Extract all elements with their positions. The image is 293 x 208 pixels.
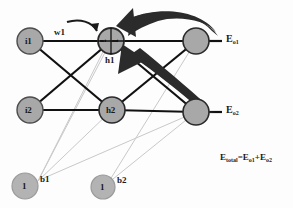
- node-h1-net-text: net: [100, 38, 106, 43]
- node-label-b1: b1: [40, 175, 50, 184]
- bias-edge-b2-o2: [108, 112, 196, 183]
- error-label-eo2: Eo2: [226, 105, 239, 115]
- node-label-h2: h2: [106, 106, 115, 115]
- node-o2[interactable]: [183, 99, 209, 125]
- error-label-eo1-base: E: [226, 33, 233, 44]
- node-inner-b2: 1: [100, 183, 104, 192]
- node-label-i2: i2: [25, 106, 32, 115]
- formula-t1-base: E: [243, 152, 249, 162]
- node-inner-b1: 1: [22, 182, 26, 191]
- bias-edge-b1-h1b: [38, 42, 108, 181]
- node-label-h1: h1: [105, 56, 115, 65]
- total-error-formula: Etotal=Eo1+Eo2: [220, 153, 272, 162]
- error-label-eo1: Eo1: [226, 34, 239, 44]
- bias-edge-b1-h2: [38, 110, 112, 181]
- error-label-eo1-sub: o1: [233, 39, 239, 45]
- weight-label-w1: w1: [54, 28, 65, 37]
- w1-pointer-arrow: [67, 20, 99, 31]
- node-h1-out-text: out: [112, 38, 118, 43]
- node-label-b2: b2: [117, 176, 127, 185]
- formula-t2-sub: o2: [266, 157, 272, 163]
- bias-edge-b1-o2: [44, 112, 196, 178]
- node-o1[interactable]: [183, 28, 209, 54]
- formula-lhs-sub: total: [226, 157, 238, 163]
- error-label-eo2-sub: o2: [233, 110, 239, 116]
- error-label-eo2-base: E: [226, 104, 233, 115]
- diagram-canvas: i1 i2 h2 net out h1 1 b1 1 b2 w1 Eo1 Eo2…: [0, 0, 293, 208]
- node-label-i1: i1: [25, 37, 32, 46]
- formula-t1-sub: o1: [249, 157, 255, 163]
